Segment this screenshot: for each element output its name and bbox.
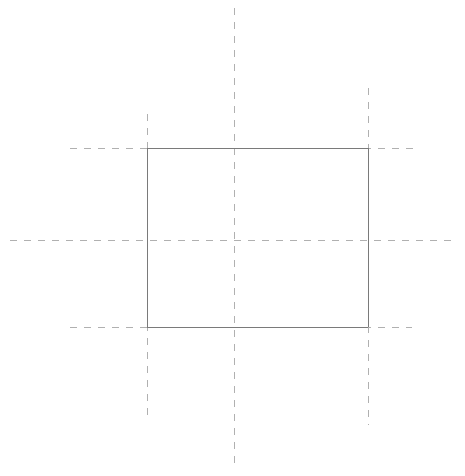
drawing-canvas — [0, 0, 465, 476]
construction-lines-layer — [10, 8, 452, 470]
rectangle-outline-layer — [147, 148, 369, 328]
technical-drawing — [0, 0, 465, 476]
